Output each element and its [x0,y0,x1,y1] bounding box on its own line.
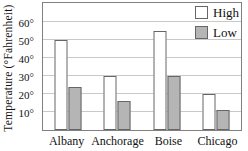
legend-swatch-low [195,26,208,39]
bar-low-boise [167,76,180,130]
bar-high-chicago [203,94,216,130]
bar-group-boise [153,31,180,130]
bar-group-albany [54,40,81,130]
bar-group-anchorage [104,76,131,130]
y-tick-label-10: 10° [19,107,34,119]
bar-low-anchorage [118,101,131,130]
y-tick-label-30: 30° [19,71,34,83]
bar-low-albany [68,87,81,130]
temperature-bar-chart: Temperature (°Fahrenheit) 10°20°30°40°50… [0,0,248,151]
y-tick-label-60: 60° [19,17,34,29]
x-label-chicago: Chicago [193,134,242,149]
legend-item-high: High [195,6,239,19]
y-tick-label-50: 50° [19,35,34,47]
y-tick-label-40: 40° [19,53,34,65]
bar-group-chicago [203,94,230,130]
bar-high-boise [153,31,166,130]
legend-label-low: Low [213,26,237,39]
x-label-boise: Boise [144,134,193,149]
bar-high-anchorage [104,76,117,130]
bar-low-chicago [217,110,230,130]
x-label-anchorage: Anchorage [91,134,144,149]
legend-swatch-high [195,6,208,19]
y-axis-tick-labels: 10°20°30°40°50°60° [0,2,38,131]
bar-high-albany [54,40,67,130]
legend: HighLow [195,6,239,46]
x-label-albany: Albany [42,134,91,149]
legend-label-high: High [213,6,239,19]
x-axis-category-labels: AlbanyAnchorageBoiseChicago [42,134,242,149]
y-tick-label-20: 20° [19,89,34,101]
legend-item-low: Low [195,26,239,39]
plot-area: HighLow [42,2,242,131]
